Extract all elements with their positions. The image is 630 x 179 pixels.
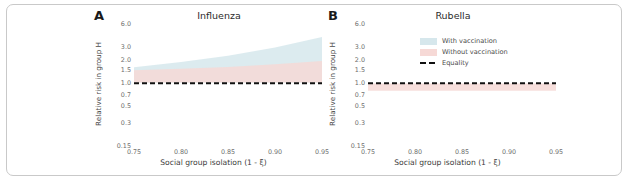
x-tick-label: 0.95 [549, 149, 563, 155]
x-axis-label-a: Social group isolation (1 - ξ) [106, 158, 321, 167]
y-tick-label: 3.0 [121, 44, 131, 50]
plot-svg [134, 24, 322, 146]
y-tick-label: 0.3 [355, 120, 365, 126]
panel-letter-b: B [328, 8, 338, 23]
legend-swatch-icon [420, 49, 437, 56]
x-axis-label-b: Social group isolation (1 - ξ) [340, 158, 555, 167]
y-tick-label: 6.0 [121, 21, 131, 27]
y-tick-label: 1.5 [121, 67, 131, 73]
panel-letter-a: A [94, 8, 104, 23]
y-tick-label: 0.5 [355, 103, 365, 109]
x-tick-label: 0.75 [127, 149, 141, 155]
x-tick-label: 0.90 [502, 149, 516, 155]
plot-area-influenza: 6.03.02.01.51.00.70.50.30.150.750.800.85… [134, 24, 322, 146]
y-tick-label: 0.7 [355, 92, 365, 98]
legend: With vaccinationWithout vaccinationEqual… [420, 36, 508, 69]
y-tick-label: 2.0 [355, 57, 365, 63]
y-tick-label: 1.5 [355, 67, 365, 73]
y-tick-label: 6.0 [355, 21, 365, 27]
legend-item-label: Without vaccination [442, 48, 508, 56]
x-tick-label: 0.80 [174, 149, 188, 155]
y-tick-label: 2.0 [121, 57, 131, 63]
legend-item-label: With vaccination [442, 37, 497, 45]
band-without-vaccination [368, 84, 556, 91]
x-tick-label: 0.90 [268, 149, 282, 155]
figure-container: A Influenza Relative risk in group H 6.0… [0, 0, 630, 179]
panel-influenza: A Influenza Relative risk in group H 6.0… [86, 0, 331, 179]
legend-item: Without vaccination [420, 47, 508, 57]
y-axis-label-a: Relative risk in group H [94, 34, 103, 134]
x-tick-label: 0.75 [361, 149, 375, 155]
y-tick-label: 0.7 [121, 92, 131, 98]
legend-item: Equality [420, 58, 508, 68]
x-tick-label: 0.85 [455, 149, 469, 155]
legend-item-label: Equality [442, 59, 469, 67]
x-tick-label: 0.80 [408, 149, 422, 155]
y-tick-label: 1.0 [355, 80, 365, 86]
legend-dashed-line-icon [420, 60, 437, 67]
y-tick-label: 1.0 [121, 80, 131, 86]
legend-swatch-icon [420, 38, 437, 45]
legend-item: With vaccination [420, 36, 508, 46]
y-tick-label: 0.5 [121, 103, 131, 109]
y-tick-label: 3.0 [355, 44, 365, 50]
y-tick-label: 0.3 [121, 120, 131, 126]
x-tick-label: 0.85 [221, 149, 235, 155]
y-axis-label-b: Relative risk in group H [328, 34, 337, 134]
panel-rubella: B Rubella Relative risk in group H 6.03.… [320, 0, 565, 179]
panel-title-rubella: Rubella [348, 10, 558, 21]
panel-title-influenza: Influenza [114, 10, 324, 21]
